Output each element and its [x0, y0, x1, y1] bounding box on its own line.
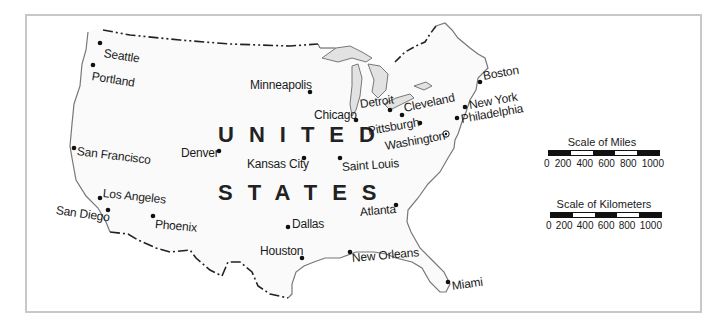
- scale-km-title: Scale of Kilometers: [548, 198, 660, 210]
- scale-km-ticks: 0 200 400 600 800 1000: [546, 220, 662, 231]
- city-label-dallas: Dallas: [292, 217, 324, 231]
- scale-miles-title: Scale of Miles: [546, 136, 658, 148]
- city-label-houston: Houston: [260, 244, 303, 258]
- scale-miles-ticks: 0 200 400 600 800 1000: [544, 158, 664, 169]
- country-label-states: STATES: [218, 180, 392, 206]
- city-label-kansas-city: Kansas City: [247, 157, 309, 171]
- city-label-denver: Denver: [181, 146, 218, 160]
- scale-of-miles: Scale of Miles 0 200 400 600 800 1000: [546, 136, 664, 169]
- scale-of-kilometers: Scale of Kilometers 0 200 400 600 800 10…: [548, 198, 662, 231]
- scale-miles-bar: [548, 150, 660, 156]
- city-label-chicago: Chicago: [314, 108, 357, 122]
- city-label-minneapolis: Minneapolis: [250, 78, 312, 92]
- scale-km-bar: [550, 212, 662, 218]
- country-label-united: UNITED: [218, 122, 390, 148]
